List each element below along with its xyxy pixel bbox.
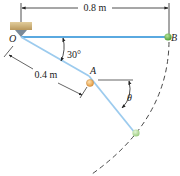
extension-line-o bbox=[4, 46, 13, 57]
dimension-label-ob: 0.8 m bbox=[84, 2, 107, 13]
rod-ab bbox=[89, 76, 135, 133]
fixed-support bbox=[10, 22, 32, 30]
extension-line-a bbox=[80, 87, 87, 98]
dimension-label-oa: 0.4 m bbox=[35, 69, 58, 80]
angle-label-30: 30° bbox=[67, 49, 81, 60]
point-label-a: A bbox=[89, 65, 97, 76]
dimension-arrow-o bbox=[9, 55, 33, 69]
angle-label-theta: θ bbox=[127, 92, 132, 103]
dimension-ob: 0.8 m bbox=[21, 2, 169, 34]
collar-a bbox=[86, 79, 93, 86]
point-label-b: B bbox=[171, 32, 177, 43]
dimension-arrow-a bbox=[58, 83, 82, 95]
ball-lower bbox=[132, 129, 139, 136]
diagram-canvas: 0.8 m 30° θ 0.4 m O B A bbox=[0, 0, 180, 176]
trajectory-arc bbox=[92, 42, 169, 174]
point-label-o: O bbox=[9, 33, 16, 44]
angle-arc-30 bbox=[61, 38, 64, 61]
